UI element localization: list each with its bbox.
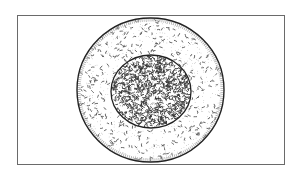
inner-circle	[111, 55, 191, 128]
concentric-circles-diagram	[0, 0, 299, 172]
